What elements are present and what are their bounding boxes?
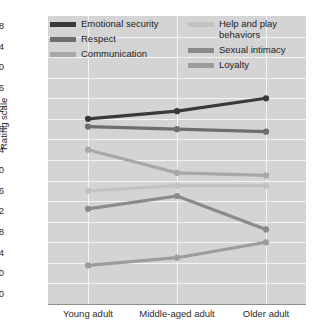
y-axis-tick: 3.4 [0,248,4,258]
data-point [263,172,269,178]
y-axis-tick: 6.6 [0,83,4,93]
legend-swatch-icon [188,22,214,27]
y-axis-tick: 6.2 [0,104,4,114]
data-point [174,255,180,261]
data-point [85,123,91,129]
data-point [85,116,91,122]
legend-item[interactable]: Emotional security [50,18,159,29]
y-axis-tick: 3.0 [0,268,4,278]
legend-item[interactable]: Loyalty [188,59,249,70]
series-line [88,242,266,265]
y-axis-tick: 5.4 [0,145,4,155]
chart-legend: Emotional securityRespectCommunicationHe… [48,16,306,78]
legend-swatch-icon [50,52,76,57]
legend-label: Help and play behaviors [219,18,277,40]
y-axis-tick: 7.4 [0,42,4,52]
y-axis-tick: 4.2 [0,206,4,216]
y-axis-tick: 7.0 [0,62,4,72]
data-point [85,147,91,153]
x-axis-tick: Young adult [63,308,113,319]
data-point [85,206,91,212]
data-point [85,188,91,194]
x-axis-line [48,304,306,305]
legend-label: Loyalty [219,59,249,70]
x-axis-tick: Older adult [243,308,289,319]
legend-swatch-icon [188,63,214,68]
y-axis-tick: 5.8 [0,124,4,134]
legend-label: Emotional security [81,18,159,29]
data-point [174,170,180,176]
y-axis-tick: 3.8 [0,227,4,237]
legend-item[interactable]: Communication [50,48,147,59]
data-point [263,226,269,232]
y-axis-tick: 0.0 [0,289,4,299]
legend-label: Communication [81,48,147,59]
y-axis-tick: 5.0 [0,165,4,175]
legend-item[interactable]: Help and play behaviors [188,18,277,40]
legend-label: Respect [81,33,116,44]
data-point [263,129,269,135]
legend-swatch-icon [188,48,214,53]
data-point [263,239,269,245]
data-point [174,193,180,199]
data-point [263,183,269,189]
data-point [174,108,180,114]
series-line [88,196,266,229]
x-axis-tick: Middle-aged adult [139,308,215,319]
legend-label: Sexual intimacy [219,44,286,55]
legend-swatch-icon [50,22,76,27]
data-point [174,126,180,132]
line-chart: Rating scale 7.87.47.06.66.25.85.45.04.6… [0,0,316,332]
y-axis-tick: 4.6 [0,186,4,196]
data-point [85,262,91,268]
legend-item[interactable]: Sexual intimacy [188,44,286,55]
data-point [174,183,180,189]
legend-swatch-icon [50,37,76,42]
legend-item[interactable]: Respect [50,33,116,44]
y-axis-tick: 7.8 [0,21,4,31]
data-point [263,95,269,101]
